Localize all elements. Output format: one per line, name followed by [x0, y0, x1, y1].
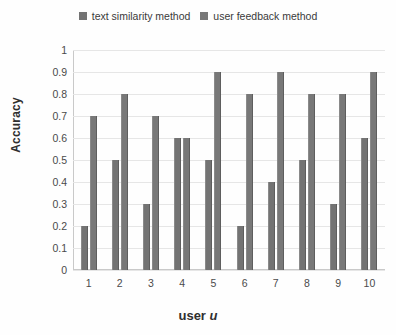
y-tick-label: 0.3	[52, 198, 67, 210]
bar-group: 3	[135, 50, 166, 270]
x-axis-title-variable: u	[210, 308, 218, 323]
bar-series-1-user-8	[299, 160, 306, 270]
x-tick-label: 3	[148, 277, 154, 289]
bar-series-2-user-1	[90, 116, 97, 270]
y-tick-label: 0.8	[52, 88, 67, 100]
bar-series-2-user-3	[152, 116, 159, 270]
bar-series-2-user-4	[183, 138, 190, 270]
x-tick-label: 8	[304, 277, 310, 289]
y-tick-label: 1	[61, 44, 67, 56]
legend-label-series-2: user feedback method	[213, 10, 317, 22]
bar-series-1-user-3	[143, 204, 150, 270]
bar-series-1-user-7	[268, 182, 275, 270]
bar-group: 8	[291, 50, 322, 270]
chart-legend: text similarity method user feedback met…	[0, 10, 396, 22]
bar-chart-figure: text similarity method user feedback met…	[0, 0, 396, 335]
y-tick-label: 0.7	[52, 110, 67, 122]
y-tick-label: 0.9	[52, 66, 67, 78]
y-tick-label: 0.4	[52, 176, 67, 188]
bar-series-2-user-10	[370, 72, 377, 270]
gridline	[73, 270, 385, 271]
x-tick-label: 2	[117, 277, 123, 289]
bar-series-2-user-9	[339, 94, 346, 270]
bar-group: 4	[167, 50, 198, 270]
legend-item-text-similarity-method: text similarity method	[79, 10, 191, 22]
legend-label-series-1: text similarity method	[92, 10, 191, 22]
bar-series-1-user-2	[112, 160, 119, 270]
bar-group: 2	[104, 50, 135, 270]
legend-swatch-series-2	[200, 12, 208, 20]
bar-series-2-user-5	[214, 72, 221, 270]
y-tick-label: 0.6	[52, 132, 67, 144]
bar-series-1-user-4	[174, 138, 181, 270]
x-tick-label: 1	[86, 277, 92, 289]
x-tick-label: 5	[210, 277, 216, 289]
bar-series-1-user-9	[330, 204, 337, 270]
bar-series-2-user-8	[308, 94, 315, 270]
y-axis-title: Accuracy	[9, 85, 23, 165]
bar-group: 7	[260, 50, 291, 270]
x-tick-label: 9	[335, 277, 341, 289]
bar-series-2-user-7	[277, 72, 284, 270]
legend-item-user-feedback-method: user feedback method	[200, 10, 317, 22]
bar-group: 5	[198, 50, 229, 270]
plot-area: 10.90.80.70.60.50.40.30.20.10 1234567891…	[73, 50, 385, 270]
bar-series-1-user-10	[361, 138, 368, 270]
y-tick-label: 0.1	[52, 242, 67, 254]
bar-series-2-user-2	[121, 94, 128, 270]
legend-swatch-series-1	[79, 12, 87, 20]
x-tick-label: 7	[273, 277, 279, 289]
x-axis-title-text: user	[178, 308, 205, 323]
y-tick-label: 0.2	[52, 220, 67, 232]
x-axis-title: user u	[0, 308, 396, 323]
bar-series-1-user-1	[81, 226, 88, 270]
bar-group: 1	[73, 50, 104, 270]
bar-series-1-user-6	[237, 226, 244, 270]
y-tick-label: 0.5	[52, 154, 67, 166]
bar-series-1-user-5	[205, 160, 212, 270]
bar-group: 6	[229, 50, 260, 270]
bar-group: 9	[323, 50, 354, 270]
x-tick-label: 6	[242, 277, 248, 289]
x-tick-label: 10	[364, 277, 376, 289]
bar-group: 10	[354, 50, 385, 270]
y-tick-label: 0	[61, 264, 67, 276]
bar-series-2-user-6	[246, 94, 253, 270]
x-tick-label: 4	[179, 277, 185, 289]
